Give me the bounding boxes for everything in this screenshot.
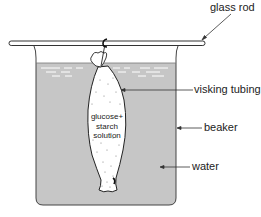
tubing-contents-line3: solution [87,131,127,141]
label-visking-tubing: visking tubing [194,84,261,95]
tubing-contents-line1: glucose+ [87,112,127,122]
tubing-contents-line2: starch [87,122,127,132]
diagram: glass rod visking tubing beaker water gl… [0,0,261,217]
label-beaker: beaker [204,122,238,133]
label-water: water [192,161,219,172]
glass-rod [9,41,205,46]
tubing-contents-label: glucose+ starch solution [87,112,127,141]
label-glass-rod: glass rod [210,2,255,13]
diagram-drawing [0,0,261,217]
